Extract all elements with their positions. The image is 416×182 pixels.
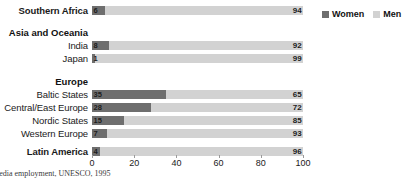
bar-segment-men [166, 90, 303, 99]
bar-value-women: 35 [94, 90, 102, 100]
bar-track: 1585 [92, 116, 303, 125]
chart-row: Western Europe793 [0, 128, 416, 139]
bar-value-women: 6 [94, 6, 98, 16]
axis-tick-label: 0 [89, 158, 94, 169]
row-label: Baltic States [0, 89, 88, 100]
bar-value-men: 65 [293, 90, 302, 100]
bar-track: 694 [92, 6, 303, 15]
group-heading: Europe [0, 76, 88, 87]
bar-track: 793 [92, 129, 303, 138]
chart-row: Nordic States1585 [0, 115, 416, 126]
row-label: Central/East Europe [0, 102, 88, 113]
bar-track: 3565 [92, 90, 303, 99]
axis-tick-label: 60 [214, 158, 224, 169]
bar-value-women: 7 [94, 129, 98, 139]
chart-row: India892 [0, 40, 416, 51]
legend-item-men: Men [373, 9, 401, 19]
bar-value-men: 94 [293, 6, 302, 16]
legend-swatch-men-icon [373, 11, 380, 18]
bar-segment-men [107, 129, 303, 138]
bar-value-men: 92 [293, 41, 302, 51]
chart-row: Baltic States3565 [0, 89, 416, 100]
bar-value-men: 99 [293, 54, 302, 64]
bar-segment-men [100, 147, 303, 156]
row-label: Japan [0, 53, 88, 64]
source-footnote: media employment, UNESCO, 1995 [0, 169, 409, 179]
bar-track: 199 [92, 54, 303, 63]
axis-tick-label: 100 [295, 158, 310, 169]
bar-value-women: 28 [94, 103, 102, 113]
axis-tick-label: 40 [171, 158, 181, 169]
bar-segment-men [94, 54, 303, 63]
stacked-bar-chart: Southern Africa694Asia and OceaniaIndia8… [0, 0, 416, 182]
row-label: Latin America [0, 146, 88, 157]
legend-label-men: Men [383, 9, 401, 19]
bar-segment-men [151, 103, 303, 112]
bar-segment-men [124, 116, 303, 125]
bar-segment-women [92, 90, 166, 99]
bar-track: 496 [92, 147, 303, 156]
bar-segment-men [109, 41, 303, 50]
legend-label-women: Women [332, 9, 364, 19]
bar-value-women: 8 [94, 41, 98, 51]
bar-value-women: 1 [94, 54, 98, 64]
bar-track: 2872 [92, 103, 303, 112]
chart-row: Central/East Europe2872 [0, 102, 416, 113]
chart-screenshot: Southern Africa694Asia and OceaniaIndia8… [0, 0, 416, 182]
row-label: Southern Africa [0, 5, 88, 16]
group-heading: Asia and Oceania [0, 27, 88, 38]
chart-legend: Women Men [322, 9, 401, 19]
bar-value-men: 96 [293, 147, 302, 157]
legend-swatch-women-icon [322, 11, 329, 18]
bar-value-men: 85 [293, 116, 302, 126]
chart-row: Japan199 [0, 53, 416, 64]
bar-value-men: 72 [293, 103, 302, 113]
axis-tick-label: 80 [256, 158, 266, 169]
bar-track: 892 [92, 41, 303, 50]
axis-tick-label: 20 [129, 158, 139, 169]
bar-value-men: 93 [293, 129, 302, 139]
chart-row: Latin America496 [0, 146, 416, 157]
bar-value-women: 4 [94, 147, 98, 157]
row-label: Nordic States [0, 115, 88, 126]
row-label: India [0, 40, 88, 51]
legend-item-women: Women [322, 9, 364, 19]
bar-value-women: 15 [94, 116, 102, 126]
row-label: Western Europe [0, 128, 88, 139]
bar-segment-men [105, 6, 303, 15]
